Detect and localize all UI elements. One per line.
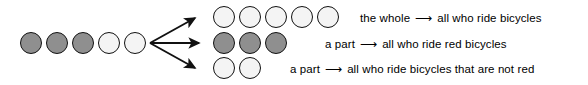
whole-row-circle-1 [213, 6, 235, 28]
whole-row-arrow-glyph: ⟶ [415, 11, 432, 25]
arrow-to-whole [150, 18, 195, 43]
whole-row-circle-5 [317, 6, 339, 28]
red-part-row-caption: a part⟶all who ride red bicycles [325, 37, 507, 52]
red-part-circle-2 [239, 32, 261, 54]
not-red-part-row-target-label: all who ride bicycles that are not red [347, 63, 534, 75]
not-red-part-circle-2 [239, 57, 261, 79]
part-whole-diagram: the whole⟶all who ride bicycles a part⟶a… [0, 0, 588, 85]
whole-row-circle-2 [239, 6, 261, 28]
arrow-to-not-red-part [150, 43, 195, 68]
red-part-row-arrow-glyph: ⟶ [360, 37, 377, 51]
whole-row-circle-3 [265, 6, 287, 28]
red-part-circle-1 [213, 32, 235, 54]
whole-set-circle-2 [46, 32, 68, 54]
whole-row-target-label: all who ride bicycles [437, 12, 541, 24]
not-red-part-circle-1 [213, 57, 235, 79]
not-red-part-row-caption: a part⟶all who ride bicycles that are no… [290, 62, 534, 77]
whole-row-part-label: the whole [360, 12, 410, 24]
not-red-part-row-arrow-glyph: ⟶ [325, 62, 342, 76]
whole-set-circle-3 [72, 32, 94, 54]
whole-row-circle-4 [291, 6, 313, 28]
whole-row-caption: the whole⟶all who ride bicycles [360, 11, 542, 26]
red-part-row-target-label: all who ride red bicycles [382, 38, 507, 50]
red-part-row-part-label: a part [325, 38, 355, 50]
whole-set-circle-4 [98, 32, 120, 54]
whole-set-circle-5 [124, 32, 146, 54]
red-part-circle-3 [265, 32, 287, 54]
not-red-part-row-part-label: a part [290, 63, 320, 75]
whole-set-circle-1 [20, 32, 42, 54]
